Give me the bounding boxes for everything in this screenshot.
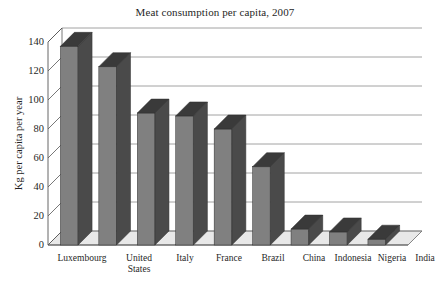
bar-chart: Meat consumption per capita, 2007 Kg per… <box>0 0 430 288</box>
plot-area <box>0 0 430 288</box>
